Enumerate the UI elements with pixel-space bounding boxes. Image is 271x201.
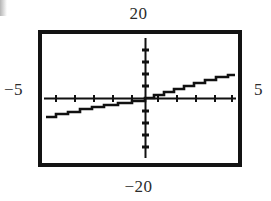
window-label-ymax: 20 [6, 5, 271, 22]
calculator-graph-figure: 20 −5 5 −20 [0, 0, 271, 201]
calculator-plot-area [42, 34, 238, 163]
window-label-xmax: 5 [254, 81, 263, 98]
window-label-ymin: −20 [6, 178, 271, 195]
plot-svg [42, 34, 238, 163]
calculator-screen-frame [38, 30, 242, 167]
window-label-xmin: −5 [4, 81, 23, 98]
